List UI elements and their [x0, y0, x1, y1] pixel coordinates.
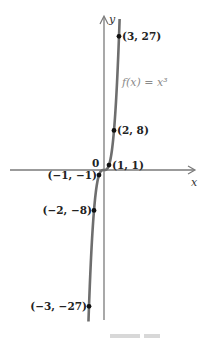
- x-axis-label: x: [191, 176, 198, 189]
- data-point-label: (1, 1): [112, 159, 144, 171]
- figure-caption-fragment: [110, 334, 140, 338]
- data-point-marker: [107, 163, 112, 168]
- data-point-label: (3, 27): [122, 30, 161, 42]
- data-point-label: (2, 8): [117, 124, 149, 136]
- figure-caption-fragment: [144, 334, 160, 338]
- data-point-marker: [117, 34, 122, 39]
- data-point-label: (−1, −1): [48, 169, 97, 181]
- y-axis-label: y: [108, 13, 116, 26]
- origin-label: 0: [92, 157, 99, 169]
- data-points: (3, 27)(2, 8)(1, 1)(−1, −1)(−2, −8)(−3, …: [30, 30, 161, 312]
- data-point-label: (−3, −27): [30, 300, 87, 312]
- data-point-marker: [112, 128, 117, 133]
- data-point-marker: [97, 173, 102, 178]
- data-point-label: (−2, −8): [43, 204, 92, 216]
- data-point-marker: [87, 304, 92, 309]
- data-point-marker: [92, 208, 97, 213]
- function-label: f(x) = x³: [121, 76, 168, 89]
- cubic-function-graph: x y 0 f(x) = x³ (3, 27)(2, 8)(1, 1)(−1, …: [0, 0, 207, 338]
